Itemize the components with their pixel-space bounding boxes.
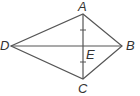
label-c: C — [78, 81, 88, 96]
label-d: D — [0, 38, 9, 53]
label-b: B — [126, 38, 135, 53]
kite-diagram: A B C D E — [0, 0, 140, 96]
label-a: A — [77, 0, 87, 14]
label-e: E — [86, 47, 95, 62]
